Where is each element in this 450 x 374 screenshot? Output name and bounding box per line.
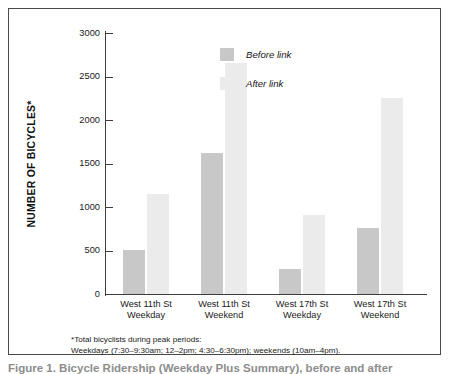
y-tick-label: 2000	[79, 116, 100, 125]
y-tick-label: 2500	[79, 72, 100, 81]
bar-before-link	[279, 269, 301, 294]
x-category-label-line2: Weekday	[257, 310, 347, 321]
x-category-label-line1: West 11th St	[101, 299, 191, 310]
bar-after-link	[381, 98, 403, 294]
legend-swatch-after-icon	[220, 77, 234, 90]
bar-after-link	[303, 215, 325, 294]
x-category-label-line2: Weekend	[335, 310, 425, 321]
y-tick-label: 1000	[79, 203, 100, 212]
footnote-line-1: *Total bicyclists during peak periods:	[71, 334, 340, 345]
y-tick-label: 0	[95, 290, 100, 299]
legend-swatch-before-icon	[220, 48, 234, 61]
bar-before-link	[201, 153, 223, 294]
legend-item-after: After link	[220, 77, 291, 90]
x-axis-line	[105, 294, 427, 295]
footnote: *Total bicyclists during peak periods: W…	[71, 334, 340, 356]
x-category-label: West 17th StWeekday	[257, 299, 347, 321]
x-category-label: West 17th StWeekend	[335, 299, 425, 321]
bar-after-link	[147, 194, 169, 294]
legend-label-after: After link	[246, 78, 283, 89]
footnote-line-2: Weekdays (7:30–9:30am; 12–2pm; 4:30–6:30…	[71, 345, 340, 356]
x-category-label-line2: Weekend	[179, 310, 269, 321]
x-category-label-line1: West 17th St	[335, 299, 425, 310]
y-tick-mark: 0	[106, 294, 113, 295]
bar-before-link	[123, 250, 145, 294]
legend: Before link After link	[220, 48, 291, 106]
x-category-label-line1: West 17th St	[257, 299, 347, 310]
x-category-label: West 11th StWeekend	[179, 299, 269, 321]
y-tick-label: 500	[84, 246, 100, 255]
x-category-label-line2: Weekday	[101, 310, 191, 321]
y-tick-label: 1500	[79, 159, 100, 168]
y-axis-title: NUMBER OF BICYCLES*	[26, 100, 37, 227]
legend-item-before: Before link	[220, 48, 291, 61]
legend-label-before: Before link	[246, 49, 291, 60]
figure-caption: Figure 1. Bicycle Ridership (Weekday Plu…	[8, 362, 450, 374]
x-category-label: West 11th StWeekday	[101, 299, 191, 321]
x-category-label-line1: West 11th St	[179, 299, 269, 310]
y-tick-label: 3000	[79, 29, 100, 38]
bar-before-link	[357, 228, 379, 294]
figure-frame: NUMBER OF BICYCLES* 05001000150020002500…	[8, 8, 441, 355]
